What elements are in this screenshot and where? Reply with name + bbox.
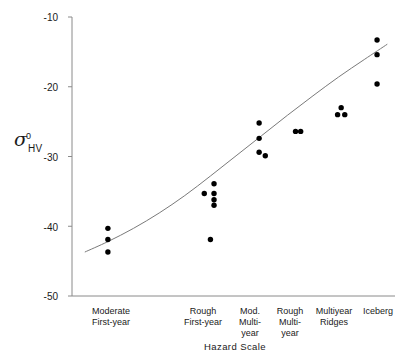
- data-point: [211, 181, 216, 186]
- data-point: [256, 150, 261, 155]
- data-point: [105, 249, 110, 254]
- data-point: [263, 153, 268, 158]
- data-point: [105, 237, 110, 242]
- data-point: [211, 203, 216, 208]
- data-point: [374, 81, 379, 86]
- data-points: [105, 37, 380, 254]
- data-point: [374, 52, 379, 57]
- data-point: [208, 237, 213, 242]
- y-axis-ticks: [68, 17, 72, 296]
- data-point: [202, 191, 207, 196]
- data-point: [374, 37, 379, 42]
- plot-area: [0, 0, 417, 358]
- data-point: [105, 226, 110, 231]
- data-point: [298, 129, 303, 134]
- trend-line: [85, 44, 387, 252]
- data-point: [256, 136, 261, 141]
- chart-figure: σ0HV -10 -20 -30 -40 -50 Moderate First-…: [0, 0, 417, 358]
- data-point: [335, 112, 340, 117]
- data-point: [342, 112, 347, 117]
- data-point: [256, 120, 261, 125]
- data-point: [211, 191, 216, 196]
- data-point: [293, 129, 298, 134]
- axis-lines: [72, 17, 395, 296]
- data-point: [211, 197, 216, 202]
- data-point: [338, 105, 343, 110]
